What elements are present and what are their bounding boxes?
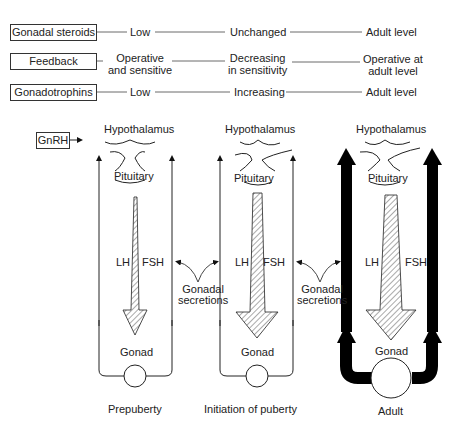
pituitary-label-3: Pituitary (368, 172, 408, 184)
hypothalamus-label-3: Hypothalamus (356, 123, 426, 135)
gonadal-secretions-label-2: Gonadal secretions (297, 284, 347, 306)
gonad-label-3: Gonad (375, 345, 408, 357)
gonad-label-2: Gonad (241, 346, 274, 358)
stage-label-prepuberty: Prepuberty (108, 403, 162, 415)
lh-label-2: LH (235, 256, 249, 268)
gonad-label-1: Gonad (120, 346, 153, 358)
secretions-line2: secretions (178, 295, 228, 306)
stage-label-adult: Adult (378, 405, 403, 417)
diagram-graphics (0, 0, 460, 427)
pituitary-label-2: Pituitary (234, 172, 274, 184)
pituitary-label-1: Pituitary (114, 170, 154, 182)
stage-label-initiation: Initiation of puberty (204, 403, 297, 415)
gonadal-secretions-label-1: Gonadal secretions (178, 284, 228, 306)
secretions-line2: secretions (297, 295, 347, 306)
fsh-label-2: FSH (263, 256, 285, 268)
hypothalamus-label-2: Hypothalamus (225, 123, 295, 135)
fsh-label-3: FSH (405, 256, 427, 268)
fsh-label-1: FSH (142, 256, 164, 268)
lh-label-1: LH (116, 256, 130, 268)
lh-label-3: LH (365, 256, 379, 268)
gnrh-label: GnRH (36, 132, 70, 149)
hypothalamus-label-1: Hypothalamus (104, 123, 174, 135)
